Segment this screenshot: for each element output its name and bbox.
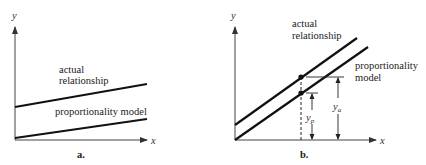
model-label-line2: model (355, 72, 381, 83)
actual-relationship-line (15, 84, 147, 107)
y-axis-label: y (230, 10, 236, 21)
y-axis-label: y (11, 10, 17, 21)
actual-label-line2: relationship (292, 30, 342, 41)
panel-b: y x actual relationship proportionality … (230, 10, 419, 160)
proportionality-model-line (15, 119, 147, 138)
figure: y x actual relationship proportionality … (0, 0, 426, 165)
model-point (298, 90, 303, 95)
actual-label-line2: relationship (59, 75, 109, 86)
actual-label-line1: actual (292, 18, 317, 29)
actual-point (298, 74, 303, 79)
model-label-line1: proportionality (355, 60, 419, 71)
caption-a: a. (77, 149, 85, 160)
x-axis-label: x (379, 135, 385, 146)
ya-label: ya (332, 101, 342, 114)
yp-label: yp (305, 112, 315, 125)
panel-a: y x actual relationship proportionality … (11, 10, 156, 160)
x-axis-label: x (150, 135, 156, 146)
actual-label-line1: actual (59, 64, 84, 75)
model-label: proportionality model (55, 106, 147, 117)
caption-b: b. (300, 149, 309, 160)
